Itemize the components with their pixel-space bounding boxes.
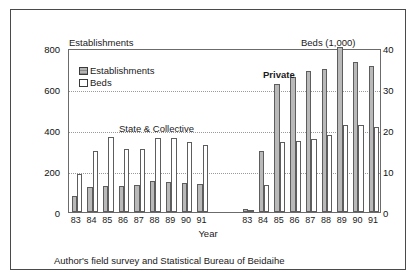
x-tick-label: 84 bbox=[258, 215, 268, 225]
bar-beds-state-collective-83 bbox=[77, 174, 82, 212]
bar-beds-private-87 bbox=[311, 139, 316, 212]
legend-swatch-beds-icon bbox=[79, 79, 88, 87]
bar-beds-private-89 bbox=[343, 125, 348, 212]
bar-beds-state-collective-88 bbox=[155, 138, 160, 212]
bar-beds-private-90 bbox=[358, 125, 363, 212]
x-tick-label: 90 bbox=[181, 215, 191, 225]
right-axis-tick-label: 30 bbox=[383, 85, 419, 96]
right-axis-tick-label: 10 bbox=[383, 167, 419, 178]
right-axis-tick-label: 40 bbox=[383, 44, 419, 55]
bar-beds-state-collective-86 bbox=[124, 149, 129, 212]
x-tick-label: 86 bbox=[118, 215, 128, 225]
x-tick-label: 91 bbox=[197, 215, 207, 225]
right-axis-caption: Beds (1,000) bbox=[301, 37, 355, 48]
x-axis-title: Year bbox=[11, 228, 405, 239]
source-note: Author's field survey and Statistical Bu… bbox=[54, 255, 284, 266]
annotation-state-collective: State & Collective bbox=[119, 123, 194, 134]
bar-beds-state-collective-87 bbox=[140, 149, 145, 212]
x-tick-label: 85 bbox=[102, 215, 112, 225]
right-axis-tick-label: 20 bbox=[383, 126, 419, 137]
figure-page: Establishments Beds (1,000) 020040060080… bbox=[0, 0, 419, 280]
left-axis-tick-label: 600 bbox=[20, 85, 60, 96]
bar-beds-state-collective-91 bbox=[203, 145, 208, 212]
x-tick-label: 84 bbox=[87, 215, 97, 225]
left-axis-tick-label: 400 bbox=[20, 126, 60, 137]
figure-frame: Establishments Beds (1,000) 020040060080… bbox=[10, 9, 406, 270]
x-tick-label: 83 bbox=[242, 215, 252, 225]
bar-beds-state-collective-85 bbox=[108, 137, 113, 212]
x-tick-label: 88 bbox=[321, 215, 331, 225]
right-axis-tick-label: 0 bbox=[383, 208, 419, 219]
annotation-private: Private bbox=[263, 69, 295, 80]
x-tick-label: 91 bbox=[368, 215, 378, 225]
bar-beds-state-collective-84 bbox=[93, 151, 98, 213]
x-tick-label: 85 bbox=[274, 215, 284, 225]
x-tick-label: 89 bbox=[337, 215, 347, 225]
bar-beds-private-86 bbox=[296, 141, 301, 212]
left-axis-tick-label: 800 bbox=[20, 44, 60, 55]
bar-beds-state-collective-89 bbox=[171, 138, 176, 212]
legend-item-establishments: Establishments bbox=[79, 65, 154, 77]
bar-beds-private-84 bbox=[264, 185, 269, 212]
bar-beds-state-collective-90 bbox=[187, 142, 192, 212]
bar-beds-private-91 bbox=[374, 127, 379, 212]
x-tick-label: 88 bbox=[149, 215, 159, 225]
bar-beds-private-85 bbox=[280, 142, 285, 212]
x-tick-label: 90 bbox=[352, 215, 362, 225]
legend-item-beds: Beds bbox=[79, 77, 154, 89]
left-axis-caption: Establishments bbox=[69, 37, 133, 48]
x-tick-label: 86 bbox=[290, 215, 300, 225]
legend: Establishments Beds bbox=[79, 65, 154, 89]
legend-swatch-establishments-icon bbox=[79, 67, 88, 75]
x-tick-label: 89 bbox=[165, 215, 175, 225]
page-bleed-text bbox=[60, 0, 360, 7]
legend-label-establishments: Establishments bbox=[90, 65, 154, 77]
bar-beds-private-88 bbox=[327, 135, 332, 212]
legend-label-beds: Beds bbox=[90, 77, 112, 89]
x-tick-label: 87 bbox=[305, 215, 315, 225]
left-axis-tick-label: 200 bbox=[20, 167, 60, 178]
bar-beds-private-83 bbox=[248, 210, 253, 212]
x-tick-label: 83 bbox=[71, 215, 81, 225]
x-tick-label: 87 bbox=[134, 215, 144, 225]
x-axis-tick-labels: 838485868788899091838485868788899091 bbox=[68, 215, 381, 227]
left-axis-tick-label: 0 bbox=[20, 208, 60, 219]
